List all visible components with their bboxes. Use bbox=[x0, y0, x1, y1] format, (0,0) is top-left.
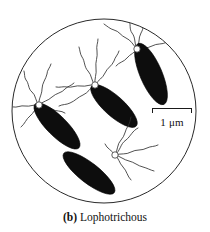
bacteria-illustration-canvas bbox=[0, 0, 210, 232]
flagella-attachment-center bbox=[92, 82, 98, 88]
caption-text: Lophotrichous bbox=[80, 211, 147, 223]
flagella-attachment-lower bbox=[112, 152, 118, 158]
figure-caption: (b) Lophotrichous bbox=[0, 210, 210, 224]
figure-lophotrichous: 1 μm (b) Lophotrichous bbox=[0, 0, 210, 232]
flagella-attachment-left bbox=[36, 102, 42, 108]
flagella-attachment-upper-right bbox=[134, 46, 140, 52]
caption-letter: (b) bbox=[63, 211, 77, 223]
